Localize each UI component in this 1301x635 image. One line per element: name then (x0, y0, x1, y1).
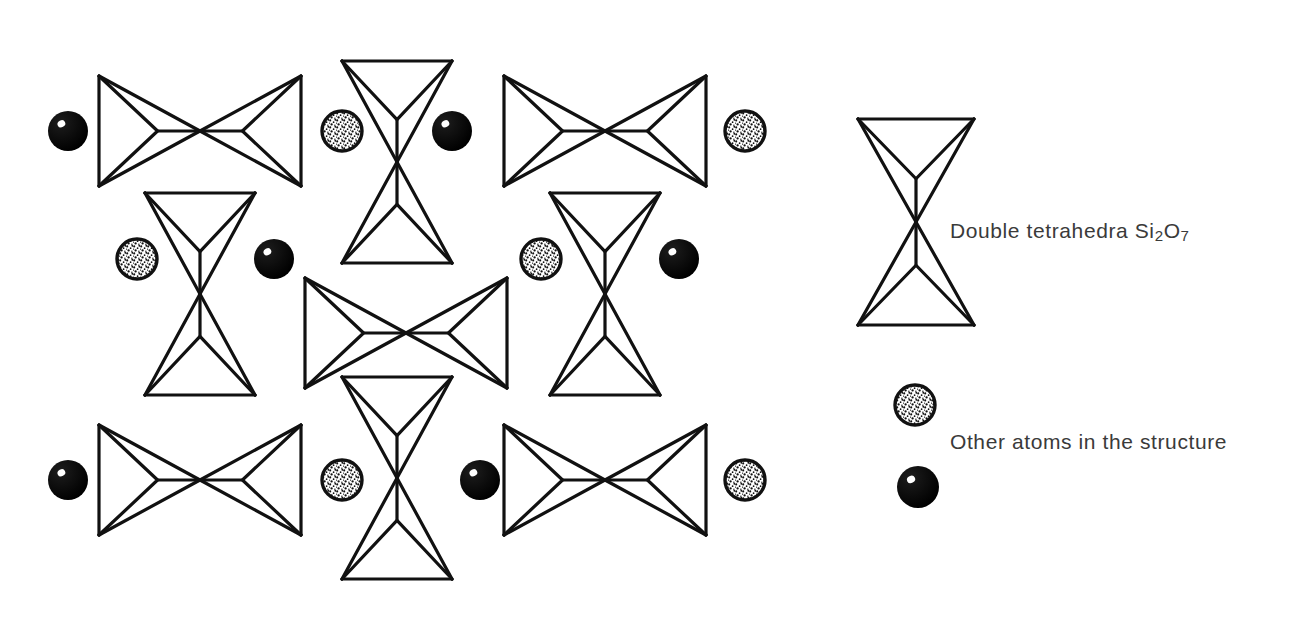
structure-diagram-canvas (0, 0, 1301, 635)
stippled-atom (117, 239, 157, 279)
solid-atom (48, 460, 88, 500)
atom-circle (322, 111, 362, 151)
atom-circle (895, 385, 935, 425)
tetrahedra-layer (99, 61, 974, 579)
double-tetrahedron-vertical (550, 193, 660, 395)
legend-tetrahedra-text: Double tetrahedra Si (950, 219, 1155, 242)
double-tetrahedron-horizontal (504, 76, 706, 186)
legend-label-double-tetrahedra: Double tetrahedra Si2O7 (950, 219, 1190, 244)
legend-tetrahedra-sub-2: 2 (1155, 227, 1164, 244)
atom-circle (897, 466, 939, 508)
stippled-atom (895, 385, 935, 425)
double-tetrahedron-horizontal (305, 278, 507, 388)
double-tetrahedron-horizontal (99, 76, 301, 186)
solid-atom (48, 111, 88, 151)
stippled-atom (322, 111, 362, 151)
stippled-atom (322, 460, 362, 500)
solid-atom (254, 239, 294, 279)
double-tetrahedron-vertical (342, 61, 452, 263)
legend-tetrahedra-sub-7: 7 (1181, 227, 1190, 244)
atom-circle (725, 111, 765, 151)
solid-atom (432, 111, 472, 151)
solid-atom (897, 466, 939, 508)
stippled-atom (725, 111, 765, 151)
legend-label-other-atoms: Other atoms in the structure (950, 430, 1227, 454)
double-tetrahedron-horizontal (504, 425, 706, 535)
atom-circle (725, 460, 765, 500)
atom-circle (432, 111, 472, 151)
atom-circle (460, 460, 500, 500)
solid-atom (659, 239, 699, 279)
atom-circle (521, 239, 561, 279)
stippled-atom (725, 460, 765, 500)
silicate-structure-figure: Double tetrahedra Si2O7 Other atoms in t… (0, 0, 1301, 635)
double-tetrahedron-vertical (145, 193, 255, 395)
atom-circle (254, 239, 294, 279)
atom-circle (117, 239, 157, 279)
legend-tetrahedra-oxygen: O (1164, 219, 1181, 242)
atom-circle (48, 460, 88, 500)
double-tetrahedron-horizontal (99, 425, 301, 535)
stippled-atom (521, 239, 561, 279)
solid-atom (460, 460, 500, 500)
atom-circle (48, 111, 88, 151)
atoms-layer (48, 111, 939, 508)
atom-circle (659, 239, 699, 279)
atom-circle (322, 460, 362, 500)
